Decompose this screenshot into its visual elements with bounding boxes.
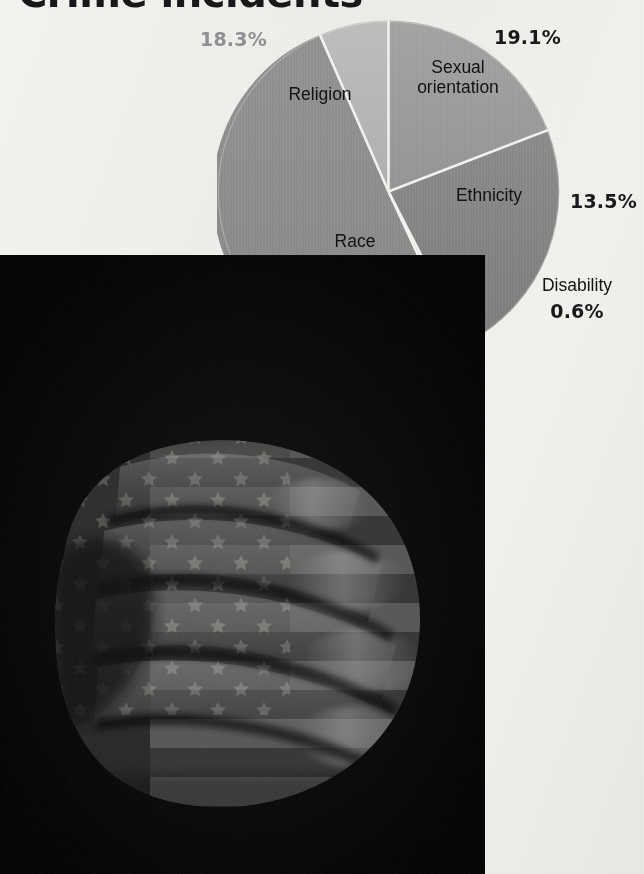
pie-percent-religion: 18.3% [200, 28, 267, 50]
photo-grain [0, 255, 485, 874]
pie-label-religion: Religion [265, 85, 375, 105]
page-title: Crime incidents [18, 0, 363, 16]
pie-label-sexual-orientation-line2: orientation [417, 77, 499, 97]
pie-label-sexual-orientation-line1: Sexual [431, 57, 485, 77]
pie-percent-disability: 0.6% [550, 300, 604, 322]
pie-label-disability: Disability [517, 276, 637, 296]
pie-label-ethnicity: Ethnicity [434, 186, 544, 206]
photo-illustration [0, 255, 485, 874]
pie-label-sexual-orientation: Sexual orientation [398, 58, 518, 97]
pie-percent-sexual-orientation: 19.1% [494, 26, 561, 48]
pie-percent-ethnicity: 13.5% [570, 190, 637, 212]
pie-label-race: Race [305, 232, 405, 252]
photo-fist-with-flag [0, 255, 485, 874]
